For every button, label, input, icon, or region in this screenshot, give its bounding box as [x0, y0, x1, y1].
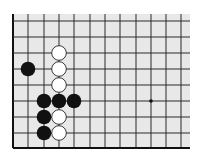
- white-stone: [52, 110, 67, 125]
- black-stone: [21, 62, 36, 77]
- black-stone: [52, 94, 67, 109]
- white-stone: [52, 126, 67, 141]
- black-stone: [37, 110, 52, 125]
- white-stone: [52, 46, 67, 61]
- star-points: [149, 99, 153, 103]
- star-point-icon: [149, 99, 153, 103]
- go-board-diagram: [0, 0, 201, 158]
- black-stone: [67, 94, 82, 109]
- black-stone: [37, 94, 52, 109]
- black-stone: [37, 126, 52, 141]
- white-stone: [52, 62, 67, 77]
- white-stone: [52, 78, 67, 93]
